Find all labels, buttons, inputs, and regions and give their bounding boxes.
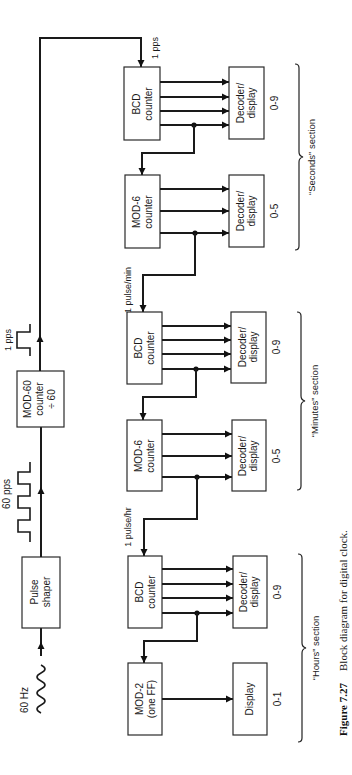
pulse-shaper-block: Pulse shaper: [22, 557, 60, 628]
arrow-icon: [38, 642, 45, 649]
svg-text:0-9: 0-9: [269, 95, 280, 110]
svg-text:counter: counter: [34, 382, 45, 416]
svg-text:display: display: [248, 440, 259, 471]
svg-text:counter: counter: [145, 331, 156, 365]
svg-text:shaper: shaper: [41, 576, 52, 607]
minutes-section-label: “Minutes” section: [309, 365, 320, 437]
svg-text:MOD-6: MOD-6: [133, 439, 144, 472]
svg-text:BCD: BCD: [133, 337, 144, 358]
svg-text:Decoder/: Decoder/: [237, 435, 248, 476]
seconds-input-1pps-label: 1 pps: [150, 36, 160, 59]
hours-bcd-counter-block: BCD counter: [128, 556, 162, 628]
minutes-decoder-0-5-block: Decoder/ display 0-5: [232, 420, 282, 491]
mod60-counter-block: MOD-60 counter ÷ 60: [17, 371, 64, 427]
seconds-decoder-0-9-block: Decoder/ display 0-9: [229, 67, 280, 139]
svg-text:0-1: 0-1: [272, 691, 283, 706]
sine-wave-icon: [37, 665, 45, 713]
svg-text:MOD-2: MOD-2: [134, 682, 145, 715]
svg-text:BCD: BCD: [134, 581, 145, 602]
hours-display-0-1-block: Display 0-1: [233, 663, 283, 735]
hours-section-label: “Hours” section: [310, 616, 321, 680]
seconds-bcd-counter-block: BCD counter: [124, 67, 160, 140]
svg-text:0-9: 0-9: [271, 339, 282, 354]
svg-text:Decoder/: Decoder/: [235, 190, 246, 231]
figure-number: Figure 7.27: [337, 683, 349, 736]
seconds-section-brace: [295, 64, 303, 250]
hours-mod2-output: [162, 696, 233, 703]
svg-text:÷ 60: ÷ 60: [46, 389, 57, 409]
arrow-icon: [37, 335, 44, 342]
svg-text:MOD-60: MOD-60: [22, 380, 33, 418]
minutes-section-brace: [297, 312, 305, 490]
figure-caption-text: Block diagram for digital clock.: [337, 530, 349, 671]
input-frequency-label: 60 Hz: [19, 687, 30, 713]
seconds-section-label: “Seconds” section: [306, 119, 317, 195]
figure-caption: Figure 7.27 Block diagram for digital cl…: [337, 530, 349, 736]
hours-decoder-0-9-block: Decoder/ display 0-9: [233, 556, 283, 628]
minutes-decoder-0-9-block: Decoder/ display 0-9: [231, 312, 282, 383]
svg-text:counter: counter: [143, 195, 154, 229]
pulse-rate-1pps-label: 1 pps: [3, 328, 13, 351]
svg-text:Decoder/: Decoder/: [237, 326, 248, 367]
hours-section-brace: [298, 554, 306, 742]
svg-text:Pulse: Pulse: [29, 579, 40, 604]
hours-mod2-counter-block: MOD-2 (one FF): [128, 663, 162, 735]
svg-text:0-5: 0-5: [271, 448, 282, 463]
pulse-rate-60pps-label: 60 pps: [1, 479, 12, 509]
svg-text:display: display: [248, 331, 259, 362]
svg-text:counter: counter: [146, 575, 157, 609]
svg-text:MOD-6: MOD-6: [131, 195, 142, 228]
seconds-decoder-0-5-block: Decoder/ display 0-5: [229, 175, 280, 247]
pulse-1pps-icon: [17, 324, 30, 356]
svg-text:BCD: BCD: [131, 93, 142, 114]
svg-text:0-5: 0-5: [269, 203, 280, 218]
svg-text:display: display: [249, 576, 260, 607]
svg-text:counter: counter: [145, 439, 156, 473]
svg-text:Decoder/: Decoder/: [238, 571, 249, 612]
minutes-bcd-counter-block: BCD counter: [127, 312, 162, 384]
svg-text:Display: Display: [244, 683, 255, 716]
svg-text:counter: counter: [143, 87, 154, 121]
arrow-icon: [138, 60, 145, 67]
svg-text:0-9: 0-9: [272, 584, 283, 599]
pulse-per-minute-label: 1 pulse/min: [123, 267, 133, 313]
pulse-per-hour-label: 1 pulse/hr: [123, 507, 133, 547]
svg-text:Decoder/: Decoder/: [235, 82, 246, 123]
seconds-mod6-counter-block: MOD-6 counter: [125, 175, 160, 248]
arrow-icon: [38, 487, 45, 494]
svg-text:(one FF): (one FF): [146, 680, 157, 718]
svg-text:display: display: [246, 195, 257, 226]
digital-clock-block-diagram: 60 Hz Pulse shaper 60 pps MOD-60 counter…: [0, 0, 352, 775]
svg-text:display: display: [246, 87, 257, 118]
minutes-mod6-counter-block: MOD-6 counter: [127, 420, 162, 491]
pulse-train-60pps-icon: [18, 462, 30, 542]
